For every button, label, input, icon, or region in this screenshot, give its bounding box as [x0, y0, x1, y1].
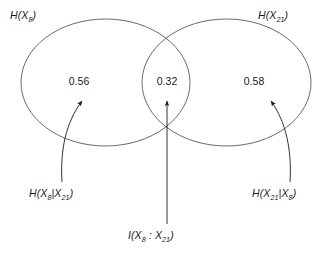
conditional-right-bar: |X: [279, 187, 289, 199]
conditional-left-label: H(X8|X21): [29, 188, 73, 201]
conditional-right-leader-arrow: [271, 101, 290, 182]
conditional-left-close: ): [70, 187, 74, 199]
conditional-right-close: ): [293, 187, 297, 199]
mutual-information-sub2: 21: [162, 235, 170, 244]
mutual-information-separator: : X: [146, 229, 162, 241]
conditional-right-label: H(X21|X8): [252, 188, 296, 201]
set-b-label: H(X21): [258, 10, 288, 23]
conditional-left-sub2: 21: [61, 193, 69, 202]
venn-diagram-figure: H(X8) H(X21) 0.56 0.32 0.58 H(X8|X21) H(…: [0, 0, 332, 255]
mutual-information-close: ): [170, 229, 174, 241]
conditional-left-base: H(X: [29, 187, 47, 199]
set-a-label: H(X8): [10, 10, 36, 23]
mutual-information-label: I(X8 : X21): [128, 230, 174, 243]
left-only-value: 0.56: [56, 76, 102, 87]
conditional-left-leader-arrow: [62, 101, 82, 182]
set-a-label-close: ): [33, 9, 37, 21]
intersection-value: 0.32: [144, 76, 190, 87]
set-a-label-base: H(X: [10, 9, 28, 21]
mutual-information-base: I(X: [128, 229, 142, 241]
set-b-label-subscript: 21: [276, 15, 284, 24]
conditional-right-sub1: 21: [270, 193, 278, 202]
venn-diagram-canvas: [0, 0, 332, 255]
set-b-label-close: ): [285, 9, 289, 21]
conditional-right-base: H(X: [252, 187, 270, 199]
set-b-label-base: H(X: [258, 9, 276, 21]
conditional-left-bar: |X: [52, 187, 62, 199]
right-only-value: 0.58: [231, 76, 277, 87]
